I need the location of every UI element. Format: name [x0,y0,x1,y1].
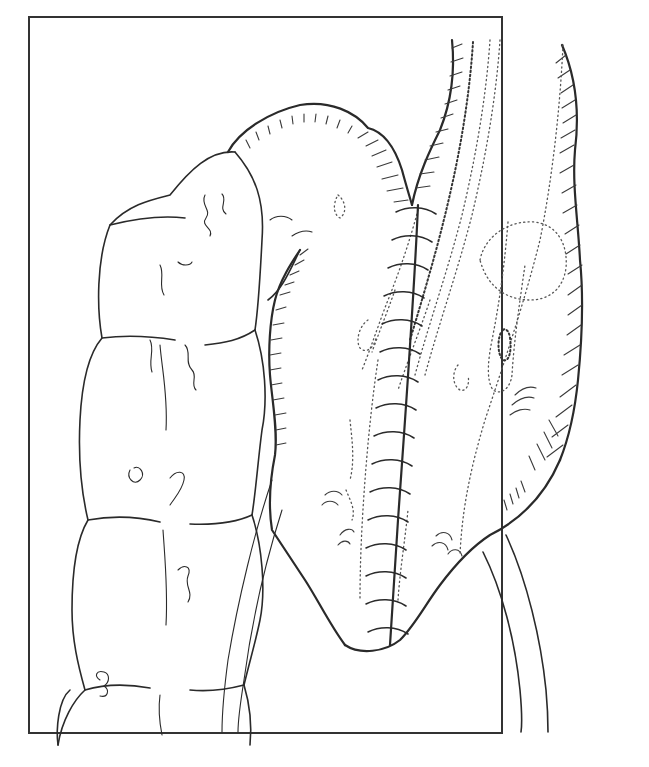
figure-frame [29,17,502,733]
hatch-upper-bulge [246,114,408,202]
surgical-illustration [0,0,649,767]
colon [57,152,312,745]
hatch-bottom [322,387,558,556]
suture-line [366,205,436,645]
hatch-left-edge [270,249,308,445]
internal-dotted-outlines [334,40,566,600]
organ-pouch [228,40,582,651]
